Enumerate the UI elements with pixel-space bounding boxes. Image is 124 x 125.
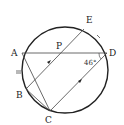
circle	[22, 27, 108, 113]
point-label-B: B	[16, 90, 23, 100]
point-label-C: C	[45, 115, 52, 125]
diagram-canvas: 46° A P D E B C	[0, 0, 124, 125]
angle-label: 46°	[84, 59, 96, 67]
point-label-E: E	[86, 15, 93, 25]
segment-BE	[26, 29, 84, 89]
point-label-D: D	[109, 48, 116, 58]
segment-BC	[26, 89, 50, 111]
point-label-P: P	[56, 41, 62, 51]
tick-mark-DE	[97, 35, 100, 38]
point-label-A: A	[10, 48, 18, 58]
segment-CD	[50, 53, 107, 111]
angle-arc-D	[99, 53, 101, 59]
geometry-diagram: 46° A P D E B C	[0, 0, 124, 125]
